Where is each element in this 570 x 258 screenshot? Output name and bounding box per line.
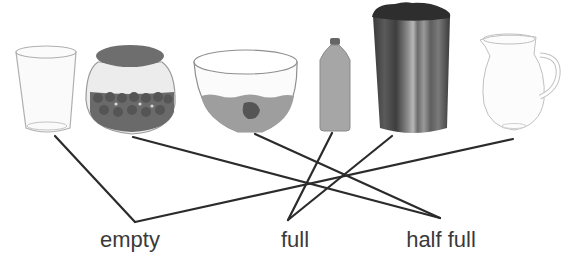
bottle-image [320,38,350,131]
line-glass-empty [55,136,135,222]
bowl-image [194,50,297,132]
jar-image [86,45,175,134]
label-full: full [281,229,309,251]
pitcher-image [480,34,558,130]
can-image [372,2,450,133]
connection-lines [55,133,513,222]
diagram-canvas [0,0,570,258]
label-empty: empty [100,229,160,251]
label-half-full: half full [406,229,476,251]
line-bottle-full [288,133,332,220]
line-can-full [288,136,392,220]
matching-diagram: empty full half full [0,0,570,258]
glass-image [16,46,76,132]
